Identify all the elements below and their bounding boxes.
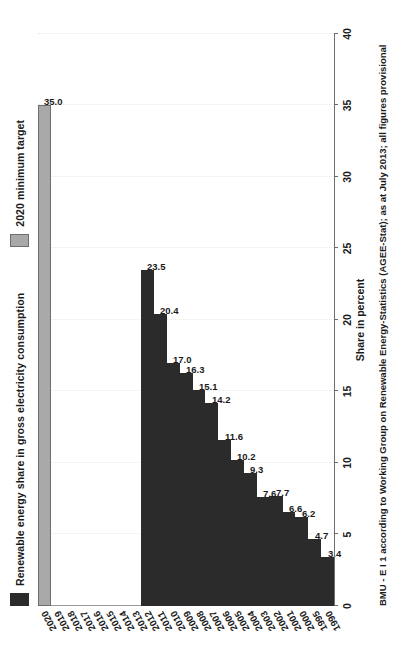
- bar-value-label: 16.3: [186, 363, 205, 374]
- chart-footnote: BMU - E I 1 according to Working Group o…: [377, 45, 388, 607]
- bar-value-label: 15.1: [199, 381, 218, 392]
- value-axis-tick-label: 30: [341, 171, 353, 183]
- value-axis: 0510152025303540 Share in percent: [334, 34, 368, 606]
- value-axis-tick: [334, 534, 338, 535]
- bar[interactable]: [192, 390, 205, 606]
- bar-row: 23.5: [141, 34, 154, 606]
- bar-row: 6.6: [282, 34, 295, 606]
- legend-label-target: 2020 minimum target: [14, 120, 26, 227]
- value-axis-tick-label: 0: [341, 603, 353, 609]
- bar-value-label: 10.2: [237, 451, 256, 462]
- value-axis-tick-label: 15: [341, 386, 353, 398]
- bar[interactable]: [218, 440, 231, 606]
- legend-swatch-target-icon: [10, 234, 29, 247]
- bar-series-group: 3.44.76.26.67.77.69.310.211.614.215.116.…: [38, 34, 334, 606]
- bar-value-label: 35.0: [44, 96, 63, 107]
- category-axis: 1990199520002001200220032004200520062007…: [38, 608, 334, 662]
- bar-value-label: 23.5: [147, 260, 166, 271]
- legend-swatch-series-icon: [10, 593, 29, 606]
- bar-row: 7.7: [270, 34, 283, 606]
- bar-chart-figure: Renewable energy share in gross electric…: [0, 0, 395, 662]
- value-axis-title: Share in percent: [354, 34, 366, 606]
- value-axis-tick: [334, 391, 338, 392]
- bar[interactable]: [308, 539, 321, 606]
- bar-row: 10.2: [231, 34, 244, 606]
- bar-row: 4.7: [308, 34, 321, 606]
- value-axis-tick-label: 25: [341, 243, 353, 255]
- bar-value-label: 11.6: [225, 431, 243, 442]
- value-axis-tick: [334, 33, 338, 34]
- bar-row: 17.0: [167, 34, 180, 606]
- bar-row: 20.4: [154, 34, 167, 606]
- bar-row: 3.4: [321, 34, 334, 606]
- bar-value-label: 7.6: [263, 488, 276, 499]
- value-axis-tick: [334, 105, 338, 106]
- bar-row: 6.2: [295, 34, 308, 606]
- bar-row: 9.3: [244, 34, 257, 606]
- bar-value-label: 9.3: [250, 464, 263, 475]
- chart-canvas: Renewable energy share in gross electric…: [0, 0, 395, 662]
- bar[interactable]: [321, 557, 334, 606]
- value-axis-line: [334, 34, 335, 606]
- bar-value-label: 17.0: [173, 353, 192, 364]
- bar[interactable]: [270, 496, 283, 606]
- plot-area: 3.44.76.26.67.77.69.310.211.614.215.116.…: [38, 34, 334, 606]
- bar[interactable]: [180, 373, 193, 606]
- value-axis-tick: [334, 605, 338, 606]
- bar-row: 14.2: [205, 34, 218, 606]
- bar-row: 16.3: [180, 34, 193, 606]
- value-axis-tick: [334, 462, 338, 463]
- value-axis-tick-label: 20: [341, 314, 353, 326]
- bar[interactable]: [205, 403, 218, 606]
- bar[interactable]: [295, 517, 308, 606]
- bar[interactable]: [167, 363, 180, 606]
- bar-row: 15.1: [192, 34, 205, 606]
- bar-row: 35.0: [38, 34, 51, 606]
- bar-value-label: 6.6: [289, 502, 302, 513]
- bar-value-label: 4.7: [315, 529, 328, 540]
- chart-legend: Renewable energy share in gross electric…: [10, 120, 29, 606]
- legend-entry-target: 2020 minimum target: [10, 120, 29, 247]
- bar-row: 7.6: [257, 34, 270, 606]
- bar-value-label: 20.4: [160, 305, 179, 316]
- bar[interactable]: [257, 497, 270, 606]
- bar[interactable]: [282, 512, 295, 606]
- legend-entry-series: Renewable energy share in gross electric…: [10, 293, 29, 606]
- value-axis-tick-label: 5: [341, 532, 353, 538]
- value-axis-tick-label: 10: [341, 457, 353, 469]
- bar[interactable]: [154, 314, 167, 606]
- legend-label-series: Renewable energy share in gross electric…: [14, 293, 26, 586]
- value-axis-tick: [334, 176, 338, 177]
- value-axis-tick-label: 40: [341, 28, 353, 40]
- bar[interactable]: [141, 270, 154, 606]
- value-axis-tick: [334, 248, 338, 249]
- bar-value-label: 7.7: [276, 486, 289, 497]
- bar[interactable]: [231, 460, 244, 606]
- bar-value-label: 6.2: [302, 508, 315, 519]
- bar[interactable]: [244, 473, 257, 606]
- bar-row: 11.6: [218, 34, 231, 606]
- value-axis-tick: [334, 319, 338, 320]
- value-axis-tick-label: 35: [341, 100, 353, 112]
- bar-value-label: 14.2: [212, 393, 231, 404]
- bar[interactable]: [38, 106, 51, 607]
